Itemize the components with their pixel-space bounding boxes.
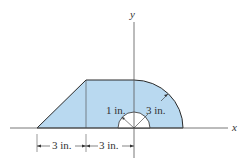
outer-radius-label: 3 in. xyxy=(146,104,166,116)
composite-area-diagram: x y 1 in. 3 in. 3 in. 3 in. xyxy=(0,0,247,168)
dim-arrow-left-icon xyxy=(37,145,41,148)
middle-width-label: 3 in. xyxy=(99,139,119,151)
dim-arrow-left-end-icon xyxy=(82,145,86,148)
dim-arrow-mid-icon xyxy=(86,145,90,148)
inner-radius-label: 1 in. xyxy=(106,104,126,116)
x-axis-label: x xyxy=(231,121,237,133)
y-axis-label: y xyxy=(129,8,135,20)
dim-arrow-mid-end-icon xyxy=(130,145,134,148)
left-width-label: 3 in. xyxy=(52,139,72,151)
